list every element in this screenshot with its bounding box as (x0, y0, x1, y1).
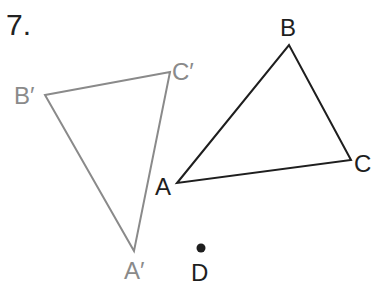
label-b-prime: B′ (14, 84, 35, 108)
label-c-prime: C′ (172, 60, 194, 84)
label-a: A (155, 175, 171, 199)
label-a-prime: A′ (124, 259, 145, 283)
label-d: D (191, 261, 208, 285)
image-triangle (45, 72, 170, 251)
label-c: C (354, 152, 371, 176)
point-d (197, 244, 206, 253)
original-triangle (177, 45, 351, 183)
label-b: B (280, 16, 296, 40)
